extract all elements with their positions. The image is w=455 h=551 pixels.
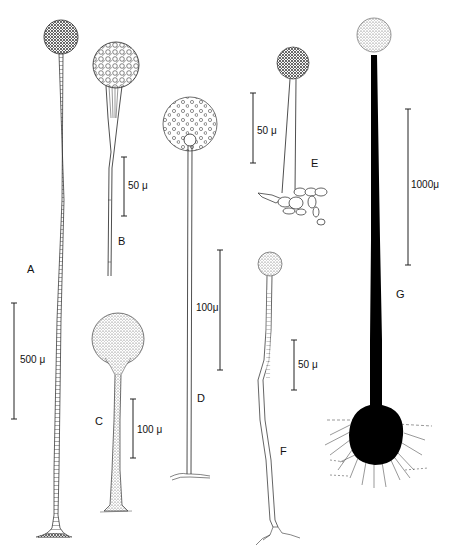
columella [184, 134, 196, 146]
stalk [104, 375, 128, 511]
stalk-and-bulb [349, 55, 403, 465]
panel-label-g: G [396, 288, 405, 300]
panel-f-sporangiophore [256, 252, 300, 545]
rhizoid [256, 527, 300, 545]
scale-bar-e [250, 93, 256, 163]
scale-label-b: 50 μ [128, 180, 148, 192]
panel-label-b: B [118, 235, 125, 247]
panel-g-sporangiophore [325, 18, 432, 488]
sporangium-head [93, 42, 139, 88]
scale-bar-f [291, 340, 297, 390]
panel-label-d: D [197, 392, 205, 404]
sporangium-head [258, 252, 282, 276]
panel-label-c: C [95, 415, 103, 427]
sporangium-head [357, 18, 391, 52]
panel-label-f: F [280, 445, 287, 457]
scale-label-a: 500 μ [20, 354, 45, 366]
scale-label-f: 50 μ [298, 359, 318, 371]
scale-label-d: 100μ [196, 302, 218, 314]
stalk [38, 54, 70, 537]
panel-b-sporangiophore [93, 42, 139, 276]
panel-d-sporangiophore [163, 97, 217, 480]
figure-sporangiophores: A B C D E F G 500 μ 50 μ 100 μ 100μ 50 μ… [0, 0, 455, 551]
panel-label-a: A [27, 263, 34, 275]
illustration-canvas [0, 0, 455, 551]
sporangium-head [44, 20, 78, 54]
scale-label-g: 1000μ [411, 179, 439, 191]
scale-bar-a [11, 303, 17, 419]
panel-c-sporangiophore [92, 313, 144, 512]
scale-label-c: 100 μ [137, 424, 162, 436]
panel-a-sporangiophore [36, 20, 78, 537]
scale-label-e: 50 μ [257, 125, 277, 137]
base [36, 534, 72, 538]
panel-label-e: E [311, 157, 318, 169]
sporangium-head [92, 313, 144, 365]
scale-bar-b [121, 157, 127, 216]
rhizoid-mycelium [258, 188, 327, 225]
scale-bar-c [130, 399, 136, 458]
sporangium-head [277, 47, 309, 79]
